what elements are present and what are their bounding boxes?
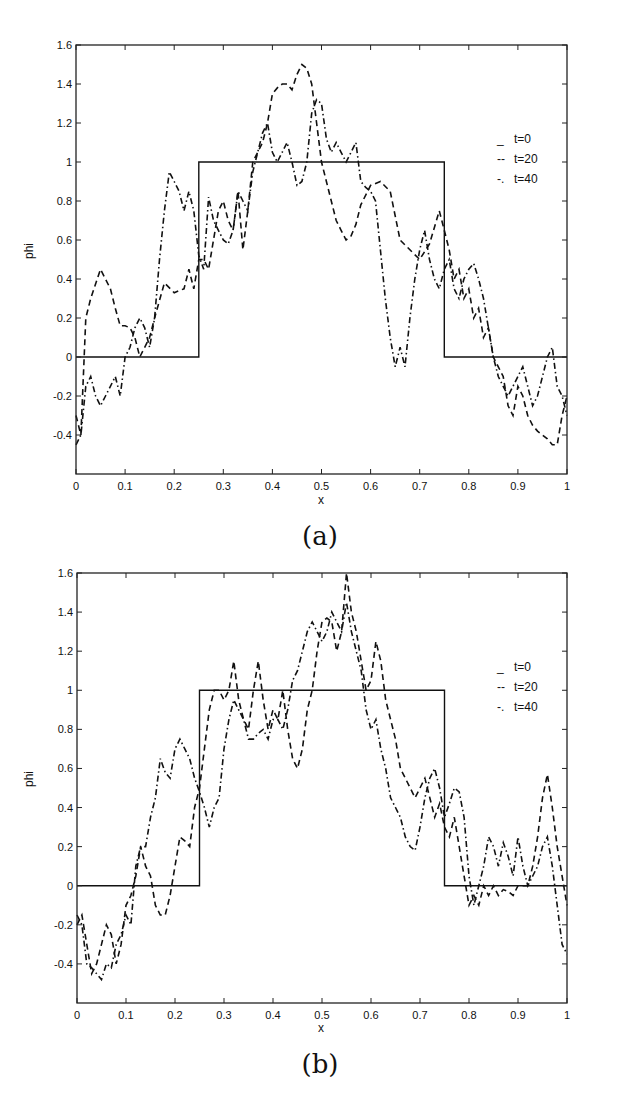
y-tick-label: 1: [67, 684, 73, 696]
y-tick-label: 0.6: [57, 234, 72, 246]
y-tick-label: -0.4: [53, 429, 72, 441]
x-tick-label: 0.8: [461, 1009, 476, 1021]
x-tick-label: 0.6: [363, 1009, 378, 1021]
y-axis-label-b: phi: [22, 771, 36, 787]
legend-marker: -.: [497, 172, 504, 186]
x-tick-label: 0.4: [265, 1009, 280, 1021]
y-tick-label: 1.2: [58, 645, 73, 657]
series-t20: [77, 573, 567, 974]
x-tick-label: 0.6: [363, 480, 378, 492]
y-tick-label: 0.6: [58, 762, 73, 774]
legend-label: t=40: [514, 700, 538, 714]
y-tick-label: 0.2: [58, 841, 73, 853]
legend-label: t=20: [514, 152, 538, 166]
legend-marker: _: [496, 660, 504, 674]
y-tick-label: 0.8: [57, 195, 72, 207]
x-tick-label: 0: [73, 480, 79, 492]
legend-marker: -.: [497, 700, 504, 714]
x-tick-label: 0: [74, 1009, 80, 1021]
x-tick-label: 0.1: [118, 1009, 133, 1021]
plot-lines-b: [77, 573, 567, 980]
x-axis-label-b: x: [318, 1021, 324, 1035]
legend-marker: --: [497, 152, 505, 166]
series-t20: [76, 65, 567, 445]
x-tick-label: 0.9: [510, 480, 525, 492]
axes-frame: [76, 45, 567, 474]
x-tick-label: 0.7: [412, 1009, 427, 1021]
legend-a: _t=0--t=20-.t=40: [496, 132, 538, 186]
series-t0: [77, 690, 567, 885]
series-t40: [76, 100, 567, 445]
axes-frame: [77, 573, 567, 1003]
y-tick-label: 1.6: [58, 567, 73, 579]
series-t40: [77, 602, 567, 979]
y-tick-label: 0: [67, 880, 73, 892]
legend-marker: --: [497, 680, 505, 694]
y-tick-label: 1.4: [58, 606, 73, 618]
x-tick-label: 0.2: [167, 480, 182, 492]
x-tick-label: 0.5: [314, 1009, 329, 1021]
y-tick-label: -0.4: [54, 958, 73, 970]
panel-a: 00.10.20.30.40.50.60.70.80.91-0.4-0.200.…: [22, 39, 570, 551]
x-tick-label: 1: [564, 1009, 570, 1021]
x-axis-label-a: x: [318, 493, 324, 507]
x-tick-label: 0.8: [461, 480, 476, 492]
plot-lines-a: [76, 65, 567, 445]
caption-a: (a): [302, 521, 338, 551]
x-tick-label: 0.4: [265, 480, 280, 492]
x-tick-label: 0.9: [510, 1009, 525, 1021]
x-tick-label: 0.2: [167, 1009, 182, 1021]
y-tick-label: -0.2: [54, 919, 73, 931]
series-t0: [76, 162, 567, 357]
legend-label: t=0: [514, 132, 531, 146]
y-tick-label: 0: [66, 351, 72, 363]
x-tick-label: 1: [564, 480, 570, 492]
y-tick-label: 0.4: [57, 273, 72, 285]
legend-label: t=20: [514, 680, 538, 694]
y-tick-label: -0.2: [53, 390, 72, 402]
x-tick-label: 0.7: [412, 480, 427, 492]
legend-label: t=0: [514, 660, 531, 674]
y-tick-label: 0.8: [58, 723, 73, 735]
y-tick-label: 1: [66, 156, 72, 168]
panel-b: 00.10.20.30.40.50.60.70.80.91-0.4-0.200.…: [22, 567, 570, 1079]
y-axis-label-a: phi: [22, 243, 36, 259]
legend-marker: _: [496, 132, 504, 146]
axes-a: 00.10.20.30.40.50.60.70.80.91-0.4-0.200.…: [53, 39, 570, 492]
y-tick-label: 0.2: [57, 312, 72, 324]
x-tick-label: 0.3: [216, 1009, 231, 1021]
x-tick-label: 0.3: [216, 480, 231, 492]
legend-b: _t=0--t=20-.t=40: [496, 660, 538, 714]
axes-b: 00.10.20.30.40.50.60.70.80.91-0.4-0.200.…: [54, 567, 570, 1021]
x-tick-label: 0.5: [314, 480, 329, 492]
y-tick-label: 1.2: [57, 117, 72, 129]
legend-label: t=40: [514, 172, 538, 186]
y-tick-label: 0.4: [58, 802, 73, 814]
figure: 00.10.20.30.40.50.60.70.80.91-0.4-0.200.…: [0, 0, 630, 1113]
x-tick-label: 0.1: [117, 480, 132, 492]
y-tick-label: 1.4: [57, 78, 72, 90]
caption-b: (b): [302, 1049, 339, 1079]
y-tick-label: 1.6: [57, 39, 72, 51]
